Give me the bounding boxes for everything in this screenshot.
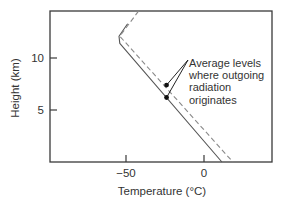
annotation-line: Average levels [189, 57, 261, 69]
annotation-pointers [167, 60, 188, 98]
x-tick-label: 0 [201, 167, 207, 179]
x-axis-label: Temperature (°C) [118, 185, 206, 197]
annotation-line: where outgoing [188, 69, 264, 81]
series-markers [164, 83, 169, 100]
pointer-line [167, 60, 188, 85]
pointer-line [167, 60, 188, 98]
y-tick-label: 10 [31, 52, 44, 64]
level-marker [164, 95, 169, 100]
annotation-line: originates [189, 94, 237, 106]
y-axis-ticks: 510 [31, 52, 57, 116]
level-marker [164, 83, 169, 88]
x-axis-ticks: −500 [116, 155, 207, 179]
y-tick-label: 5 [38, 104, 44, 116]
y-axis-label: Height (km) [9, 58, 21, 118]
plot-frame [50, 11, 272, 162]
annotation-line: radiation [189, 81, 231, 93]
annotation-text: Average levelswhere outgoingradiationori… [188, 57, 264, 106]
chart: 510 −500 Average levelswhere outgoingrad… [0, 0, 284, 204]
x-tick-label: −50 [116, 167, 136, 179]
